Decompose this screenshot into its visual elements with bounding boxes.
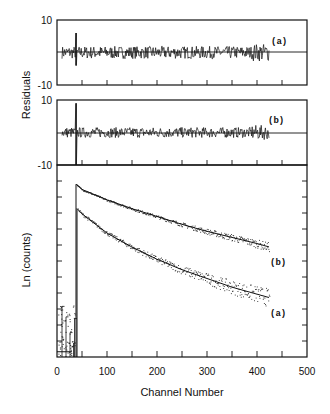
xtick-300: 300 [199, 366, 216, 377]
instrument-response-points [57, 306, 77, 357]
decay-panel: (b) (a) Ln (counts) [20, 165, 307, 357]
xtick-0: 0 [54, 366, 60, 377]
panel-a-label: (a) [271, 37, 287, 47]
residuals-panel-a: 10 -10 (a) [38, 15, 307, 91]
decay-a-label: (a) [270, 309, 286, 319]
decay-b-fit-line [76, 184, 269, 357]
residuals-panel-b: 10 -10 (b) [38, 95, 307, 171]
xtick-500: 500 [299, 366, 316, 377]
panel-b-xticks [82, 160, 282, 165]
panel-b-ytick-bottom: -10 [38, 160, 53, 171]
residuals-a-trace [62, 33, 269, 66]
xtick-200: 200 [149, 366, 166, 377]
panel-a-ytick-top: 10 [41, 15, 53, 26]
decay-b-points [77, 185, 270, 253]
xtick-100: 100 [99, 366, 116, 377]
panel-b-label: (b) [268, 116, 284, 126]
residuals-axis-label: Residuals [20, 70, 32, 119]
panel-a-xticks [82, 80, 282, 85]
ln-counts-axis-label: Ln (counts) [20, 232, 32, 287]
figure: 10 -10 (a) 10 -10 (b) Residuals (b) (a) … [0, 0, 330, 414]
x-tick-labels: 0 100 200 300 400 500 [54, 366, 316, 377]
xtick-400: 400 [249, 366, 266, 377]
decay-a-points [78, 209, 270, 307]
decay-b-label: (b) [270, 258, 286, 268]
panel-b-ytick-top: 10 [41, 95, 53, 106]
x-axis-label: Channel Number [140, 386, 223, 398]
decay-a-fit-line [77, 209, 269, 357]
panel-a-ytick-bottom: -10 [38, 80, 53, 91]
residuals-b-trace [62, 103, 269, 165]
